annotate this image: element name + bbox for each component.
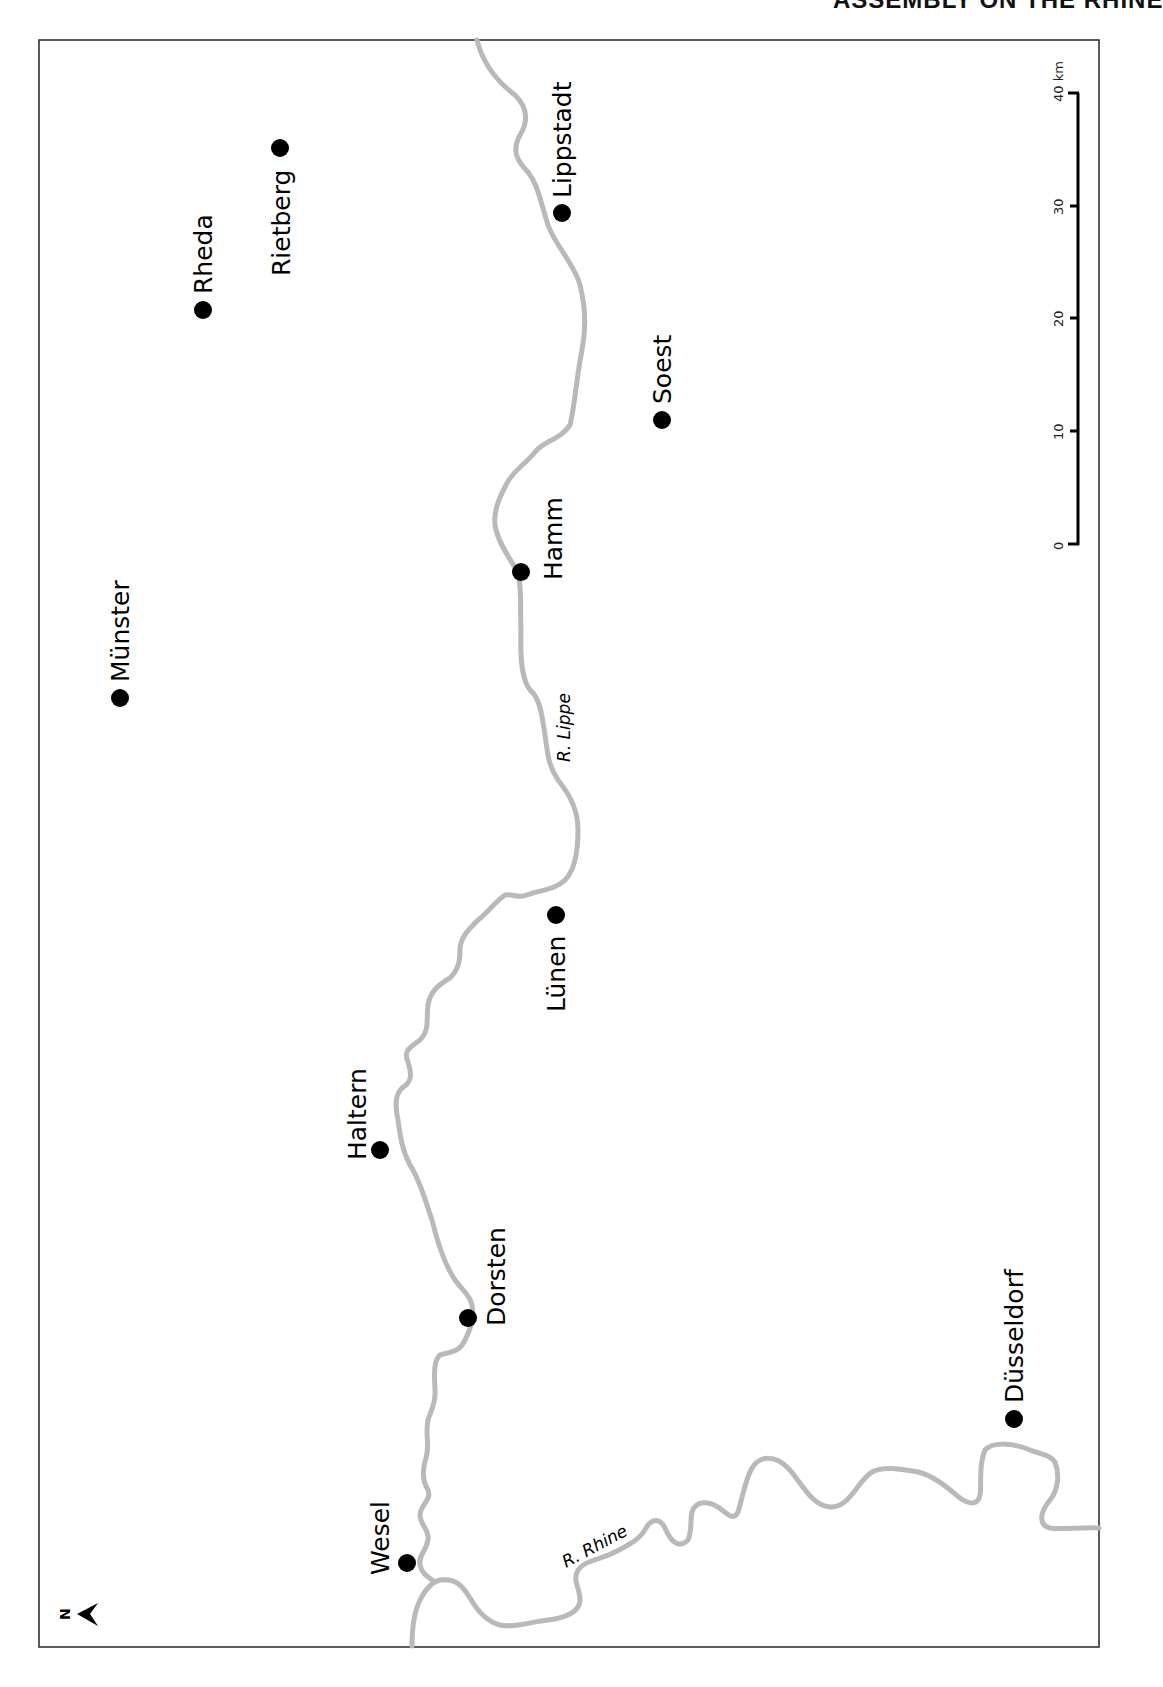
scale-tick-30: 30 [1051, 198, 1066, 215]
city-label-wesel: Wesel [366, 1501, 395, 1575]
city-dot-icon [553, 204, 571, 222]
river-rhine [412, 1444, 1099, 1646]
city-label-rietberg: Rietberg [267, 170, 296, 276]
city-label-hamm: Hamm [539, 497, 568, 580]
city-dot-icon [398, 1554, 416, 1572]
river-lippe [396, 40, 585, 1582]
city-haltern: Haltern [343, 1068, 389, 1160]
scale-tick-10: 10 [1051, 423, 1066, 440]
city-dot-icon [111, 689, 129, 707]
river-label-rhine: R. Rhine [558, 1520, 630, 1571]
city-label-lunen: Lünen [542, 936, 571, 1012]
city-label-lippstadt: Lippstadt [548, 81, 577, 198]
scale-tick-0: 0 [1051, 542, 1066, 550]
scale-tick-20: 20 [1051, 310, 1066, 327]
city-wesel: Wesel [366, 1501, 416, 1575]
city-lunen: Lünen [542, 906, 571, 1012]
city-label-rheda: Rheda [189, 214, 218, 294]
scale-tick-40: 40 km [1051, 61, 1066, 102]
city-label-dorsten: Dorsten [482, 1227, 511, 1326]
city-dot-icon [653, 411, 671, 429]
north-arrow-label: N [57, 1608, 73, 1620]
scale-bar: 0 10 20 30 40 km [1051, 61, 1079, 550]
city-dot-icon [1005, 1410, 1023, 1428]
city-dot-icon [459, 1309, 477, 1327]
city-dorsten: Dorsten [459, 1227, 511, 1327]
city-label-soest: Soest [648, 334, 677, 404]
city-dot-icon [512, 563, 530, 581]
north-arrow-icon [77, 1603, 98, 1626]
city-dot-icon [271, 139, 289, 157]
city-hamm: Hamm [512, 497, 568, 581]
city-label-haltern: Haltern [343, 1068, 372, 1160]
city-lippstadt: Lippstadt [548, 81, 577, 222]
city-label-dusseldorf: Düsseldorf [1000, 1268, 1029, 1403]
city-dot-icon [547, 906, 565, 924]
city-soest: Soest [648, 334, 677, 429]
city-dot-icon [371, 1141, 389, 1159]
city-dot-icon [194, 301, 212, 319]
city-munster: Münster [106, 580, 135, 707]
city-rheda: Rheda [189, 214, 218, 319]
city-rietberg: Rietberg [267, 139, 296, 276]
city-dusseldorf: Düsseldorf [1000, 1268, 1029, 1428]
city-label-munster: Münster [106, 580, 135, 682]
north-arrow: N [57, 1603, 98, 1626]
river-label-lippe: R. Lippe [554, 693, 574, 762]
